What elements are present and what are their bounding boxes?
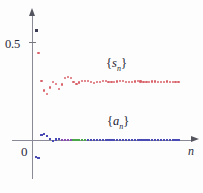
data-point-an: [72, 139, 74, 141]
data-point-an: [43, 133, 45, 135]
data-point-an: [99, 139, 101, 141]
data-point-sn: [75, 83, 77, 85]
data-point-an: [148, 139, 150, 141]
data-point-an: [46, 135, 48, 137]
data-point-sn: [125, 81, 127, 83]
data-point-sn: [177, 81, 179, 83]
data-point-an: [122, 139, 124, 141]
data-point-sn: [174, 81, 176, 83]
y-axis-tick-0.5: [29, 42, 36, 43]
data-point-sn: [46, 93, 48, 95]
data-point-sn: [67, 76, 69, 78]
data-point-an: [55, 138, 57, 140]
series-label-an: {an}: [107, 114, 129, 131]
data-point-an: [84, 139, 86, 141]
data-point-an: [151, 139, 153, 141]
data-point-sn: [35, 29, 38, 32]
data-point-sn: [131, 81, 133, 83]
data-point-an: [131, 139, 133, 141]
data-point-sn: [163, 81, 165, 83]
data-point-an: [157, 139, 159, 141]
data-point-sn: [90, 81, 92, 83]
data-point-sn: [43, 89, 45, 91]
data-point-sn: [102, 80, 104, 82]
y-axis-tick-label: 0.5: [5, 37, 20, 52]
data-point-an: [145, 139, 147, 141]
data-point-sn: [116, 80, 118, 82]
data-point-an: [64, 139, 66, 141]
data-point-an: [107, 139, 109, 141]
data-point-sn: [145, 81, 147, 83]
x-axis-arrow-icon: [191, 136, 199, 142]
data-point-an: [160, 139, 162, 141]
y-axis-line: [32, 14, 33, 179]
data-point-sn: [110, 81, 112, 83]
data-point-sn: [166, 80, 168, 82]
data-point-an: [110, 139, 112, 141]
data-point-an: [105, 139, 107, 141]
data-point-an: [49, 138, 51, 140]
data-point-sn: [134, 80, 136, 82]
data-point-an: [70, 139, 72, 141]
brace-close: }: [123, 114, 129, 128]
data-point-an: [102, 139, 104, 141]
data-point-sn: [55, 83, 57, 85]
data-point-an: [93, 139, 95, 141]
series-label-sn: {sn}: [106, 56, 127, 73]
data-point-sn: [160, 81, 162, 83]
data-point-sn: [87, 80, 89, 82]
data-point-sn: [64, 77, 66, 79]
data-point-an: [177, 139, 179, 141]
data-point-an: [174, 139, 176, 141]
data-point-sn: [40, 80, 42, 82]
data-point-an: [125, 139, 127, 141]
data-point-an: [67, 139, 69, 141]
data-point-sn: [128, 81, 130, 83]
data-point-sn: [72, 81, 74, 83]
data-point-sn: [122, 80, 124, 82]
data-point-sn: [148, 81, 150, 83]
brace-close: }: [121, 56, 127, 70]
data-point-an: [113, 139, 115, 141]
data-point-an: [58, 138, 60, 140]
data-point-sn: [169, 81, 171, 83]
data-point-sn: [78, 81, 80, 83]
scatter-plot-figure: 0.5 0 n {sn} {an}: [0, 0, 203, 193]
data-point-sn: [142, 81, 144, 83]
data-point-sn: [61, 83, 63, 85]
data-point-sn: [93, 82, 95, 84]
data-point-an: [172, 139, 174, 141]
data-point-an: [134, 139, 136, 141]
data-point-sn: [154, 80, 156, 82]
data-point-sn: [70, 77, 72, 79]
data-point-sn: [113, 81, 115, 83]
data-point-an: [128, 139, 130, 141]
data-point-sn: [96, 81, 98, 83]
data-point-sn: [137, 80, 139, 82]
data-point-an: [163, 139, 165, 141]
data-point-sn: [157, 81, 159, 83]
data-point-an: [35, 156, 37, 158]
data-point-an: [37, 157, 39, 159]
data-point-an: [61, 139, 63, 141]
data-point-an: [90, 139, 92, 141]
data-point-sn: [37, 52, 39, 54]
data-point-an: [119, 139, 121, 141]
data-point-an: [116, 139, 118, 141]
data-point-sn: [81, 80, 83, 82]
y-axis-arrow-icon: [29, 8, 35, 16]
data-point-an: [166, 139, 168, 141]
data-point-an: [154, 139, 156, 141]
data-point-an: [78, 139, 80, 141]
data-point-an: [142, 139, 144, 141]
data-point-an: [52, 140, 54, 142]
data-point-an: [40, 134, 42, 136]
data-point-sn: [139, 80, 141, 82]
data-point-an: [137, 139, 139, 141]
x-axis-label: n: [188, 144, 194, 159]
data-point-sn: [172, 81, 174, 83]
data-point-sn: [49, 86, 51, 88]
origin-label: 0: [21, 144, 27, 160]
data-point-an: [75, 139, 77, 141]
data-point-sn: [84, 80, 86, 82]
